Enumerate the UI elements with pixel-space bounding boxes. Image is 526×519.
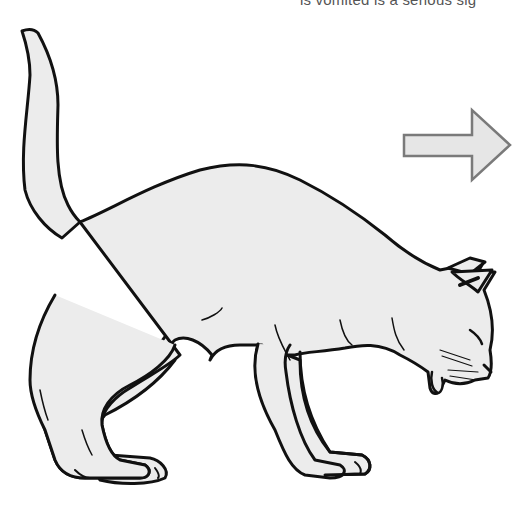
cat-illustration (22, 30, 495, 484)
arrow-right-icon (404, 110, 510, 180)
illustration-scene (0, 0, 526, 519)
cat-tail (22, 30, 80, 238)
cat-near-hind-leg (30, 295, 175, 478)
